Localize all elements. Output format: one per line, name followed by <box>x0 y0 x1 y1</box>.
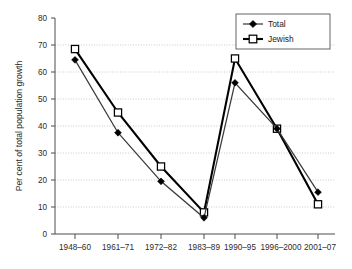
y-tick-label-10: 10 <box>38 203 48 212</box>
line-chart-canvas: 80 70 60 50 40 30 20 10 0 1948–60 1961–7… <box>0 0 352 269</box>
x-tick-label-3: 1983–89 <box>188 243 220 252</box>
x-tick-label-2: 1972–82 <box>145 243 177 252</box>
data-point-total <box>72 56 79 63</box>
y-tick-label-30: 30 <box>38 149 48 158</box>
y-axis-title: Per cent of total population growth <box>14 61 24 192</box>
x-tick-label-1: 1961–71 <box>102 243 134 252</box>
y-tick-label-80: 80 <box>38 14 48 23</box>
series-jewish <box>71 45 321 216</box>
data-point-jewish <box>114 109 121 116</box>
data-point-total <box>315 189 322 196</box>
data-point-jewish <box>314 201 321 208</box>
y-tick-label-0: 0 <box>42 230 47 239</box>
x-tick-label-4: 1990–95 <box>224 243 256 252</box>
series-total <box>72 56 322 221</box>
x-tick-label-6: 2001–07 <box>304 243 336 252</box>
legend-label-jewish: Jewish <box>268 34 294 44</box>
y-tick-label-20: 20 <box>38 176 48 185</box>
gridlines <box>55 45 335 207</box>
y-tick-label-40: 40 <box>38 122 48 131</box>
x-tick-label-0: 1948–60 <box>59 243 91 252</box>
legend-label-total: Total <box>268 19 286 29</box>
chart-figure: 80 70 60 50 40 30 20 10 0 1948–60 1961–7… <box>0 0 352 269</box>
x-tick-label-5: 1996–2000 <box>261 243 302 252</box>
legend-marker-jewish-square-icon <box>249 35 257 43</box>
y-tick-label-60: 60 <box>38 68 48 77</box>
data-point-jewish <box>71 45 78 52</box>
x-axis-ticks <box>75 234 318 239</box>
y-axis-ticks <box>51 18 55 234</box>
y-tick-label-70: 70 <box>38 41 48 50</box>
chart-legend[interactable]: Total Jewish <box>236 14 330 49</box>
data-point-jewish <box>231 55 238 62</box>
y-tick-label-50: 50 <box>38 95 48 104</box>
data-point-jewish <box>157 163 164 170</box>
